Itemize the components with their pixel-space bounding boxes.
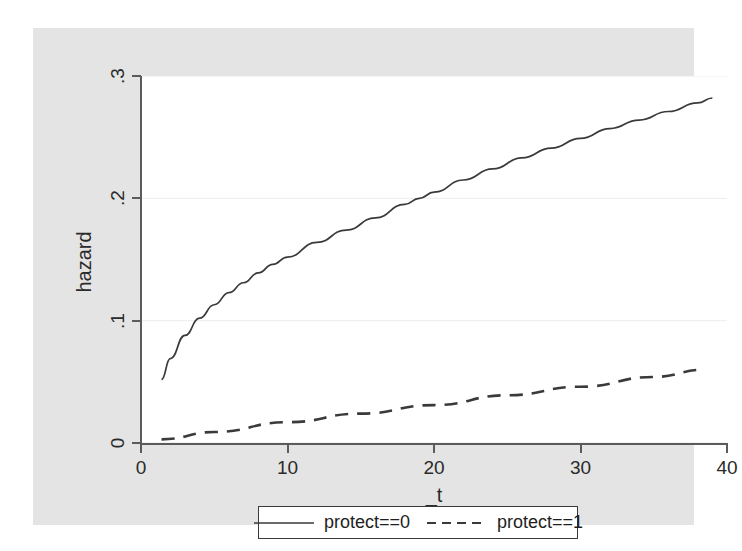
x-tick-label: 40 xyxy=(697,457,742,479)
x-tick-mark xyxy=(287,444,289,453)
series-line-2 xyxy=(162,370,706,440)
x-tick-mark xyxy=(140,444,142,453)
series-layer xyxy=(162,98,713,439)
y-tick-label: 0 xyxy=(107,432,129,454)
y-tick-mark xyxy=(132,75,141,77)
series-line-1 xyxy=(162,98,713,379)
plot-region xyxy=(141,76,727,443)
y-tick-label: .2 xyxy=(107,187,129,209)
plot-svg xyxy=(141,76,727,443)
legend-key-solid xyxy=(253,516,315,530)
x-tick-label: 30 xyxy=(551,457,611,479)
x-tick-label: 0 xyxy=(111,457,171,479)
y-tick-label: .1 xyxy=(107,310,129,332)
x-tick-label: 20 xyxy=(404,457,464,479)
gridlines xyxy=(141,76,727,443)
legend-label-protect-1: protect==1 xyxy=(497,512,583,533)
x-tick-mark xyxy=(433,444,435,453)
x-tick-mark xyxy=(580,444,582,453)
legend: protect==0 protect==1 xyxy=(258,506,578,539)
legend-key-dashed xyxy=(426,516,488,530)
legend-entry-protect-1: protect==1 xyxy=(426,512,583,533)
legend-entry-protect-0: protect==0 xyxy=(253,512,410,533)
legend-label-protect-0: protect==0 xyxy=(324,512,410,533)
y-axis-title: hazard xyxy=(69,212,99,312)
graph-canvas: 0.1.2.3 010203040 hazard _t protect==0 xyxy=(33,28,694,525)
y-axis-title-label: hazard xyxy=(73,231,96,292)
y-tick-mark xyxy=(132,320,141,322)
y-tick-mark xyxy=(132,197,141,199)
x-axis-title: _t xyxy=(141,484,727,507)
y-axis-line xyxy=(140,76,142,444)
y-tick-label: .3 xyxy=(107,65,129,87)
x-tick-mark xyxy=(726,444,728,453)
x-tick-label: 10 xyxy=(258,457,318,479)
